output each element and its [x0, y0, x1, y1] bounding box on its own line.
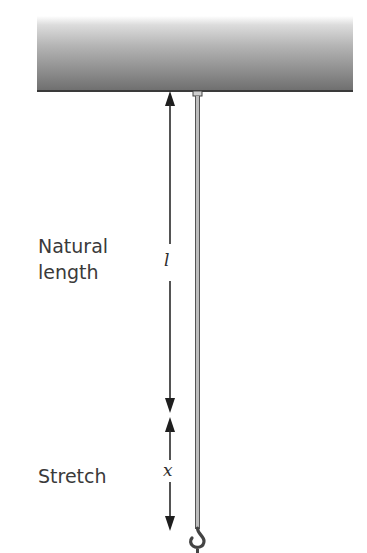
hook-icon	[191, 528, 204, 553]
arrowhead-down-icon	[165, 398, 175, 413]
elastic-string-rod	[195, 96, 200, 529]
stretch-dimension-arrow	[165, 417, 175, 531]
arrowhead-up-icon	[165, 91, 175, 106]
natural-length-dimension-arrow	[165, 91, 175, 413]
arrowhead-up-icon	[165, 417, 175, 432]
diagram-graphics	[0, 0, 367, 553]
arrowhead-down-icon	[165, 516, 175, 531]
rod-connector	[193, 91, 202, 96]
